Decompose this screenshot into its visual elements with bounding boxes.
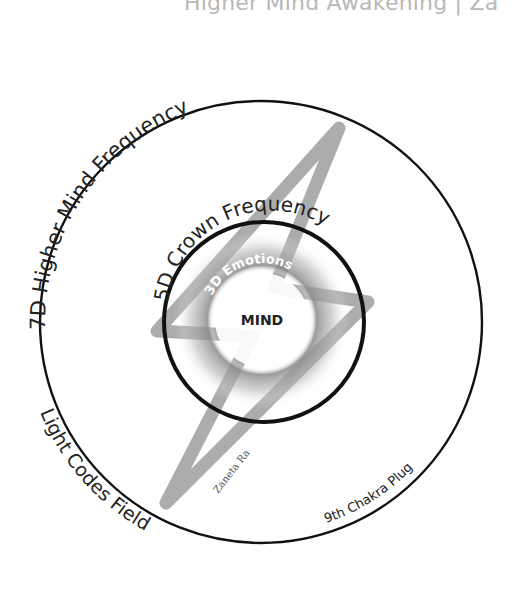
higher-mind-diagram: MIND 7D Higher Mind Frequency 5D Crown F… [0,0,512,599]
light-codes-label: Light Codes Field [36,405,154,535]
light-codes-label-path: Light Codes Field [36,405,154,535]
mind-label: MIND [241,312,283,328]
